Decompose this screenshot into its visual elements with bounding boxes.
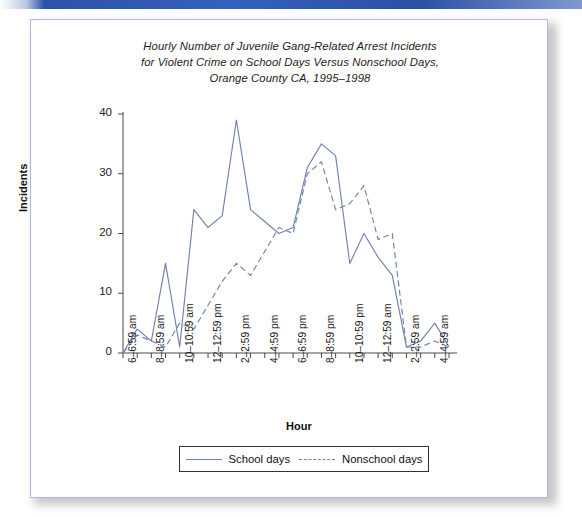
legend-item-school-days: School days (186, 453, 291, 465)
x-tick-label: 4–4:59 pm (269, 315, 280, 363)
x-tick-label: 12–12:59 am (382, 304, 393, 363)
x-tick-label: 6–6:59 am (127, 315, 138, 363)
legend-line-solid-icon (186, 459, 222, 460)
chart-legend: School days Nonschool days (179, 446, 429, 472)
legend-label-school-days: School days (229, 453, 291, 465)
series-line-school-days (123, 120, 449, 353)
y-tick-label: 0 (86, 345, 112, 357)
window-accent-bar-fade (0, 0, 44, 9)
y-axis-label: Incidents (17, 164, 29, 212)
x-tick-label: 2–2:59 am (410, 315, 421, 363)
x-tick-label: 6–6:59 pm (297, 315, 308, 363)
x-tick-label: 12–12:59 pm (212, 304, 223, 363)
y-tick-label: 30 (86, 166, 112, 178)
plot-area: Incidents 0102030406–6:59 am8–8:59 am10–… (31, 20, 549, 499)
x-tick-label: 4–4:59 am (439, 315, 450, 363)
y-tick-label: 10 (86, 285, 112, 297)
chart-figure: Hourly Number of Juvenile Gang-Related A… (31, 20, 549, 499)
series-line-nonschool-days (123, 162, 449, 353)
x-tick-label: 8–8:59 pm (325, 315, 336, 363)
x-tick-label: 8–8:59 am (155, 315, 166, 363)
figure-card: Hourly Number of Juvenile Gang-Related A… (30, 19, 548, 498)
y-tick-label: 20 (86, 226, 112, 238)
window-accent-bar (42, 0, 582, 9)
y-tick-label: 40 (86, 106, 112, 118)
legend-line-dashed-icon (299, 459, 335, 460)
x-axis-label: Hour (286, 420, 312, 432)
legend-label-nonschool-days: Nonschool days (342, 453, 422, 465)
x-tick-label: 10–10:59 am (184, 304, 195, 363)
x-tick-label: 2–2:59 pm (240, 315, 251, 363)
x-tick-label: 10–10:59 pm (354, 304, 365, 363)
legend-item-nonschool-days: Nonschool days (299, 453, 422, 465)
